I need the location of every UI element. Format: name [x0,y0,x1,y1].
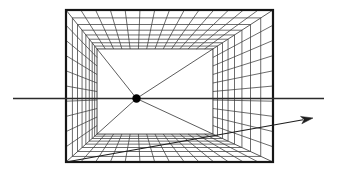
back-wall-edge [97,49,213,134]
perspective-figure [0,0,337,173]
perspective-figure-svg [0,0,337,173]
vanishing-point-dot [132,94,140,102]
depth-transversals [72,18,260,156]
